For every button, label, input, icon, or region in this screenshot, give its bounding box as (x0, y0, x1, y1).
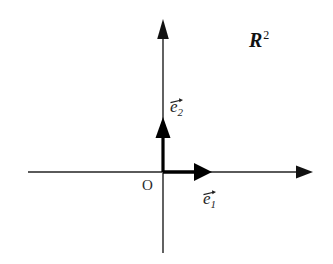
vector-space-label: R2 (249, 29, 269, 50)
e1-label-stack: e (203, 190, 211, 207)
e2-label-stack: e (170, 98, 178, 115)
axes-canvas (0, 0, 333, 264)
y-axis-arrowhead (157, 19, 169, 39)
e2-label-subscript: 2 (178, 106, 184, 118)
vector-space-diagram: R2 O e 2 e 1 (0, 0, 333, 264)
vector-space-exponent: 2 (263, 28, 269, 42)
e1-vector-arrowhead (194, 163, 212, 181)
e1-label: e 1 (203, 190, 216, 210)
e2-vector-arrowhead (156, 117, 171, 138)
e2-label-base: e (170, 97, 178, 116)
e1-label-subscript: 1 (211, 198, 217, 210)
x-axis-arrowhead (296, 166, 313, 179)
vector-space-base: R (249, 29, 262, 51)
origin-label: O (142, 178, 153, 193)
e2-label: e 2 (170, 98, 183, 118)
e1-label-base: e (203, 189, 211, 208)
